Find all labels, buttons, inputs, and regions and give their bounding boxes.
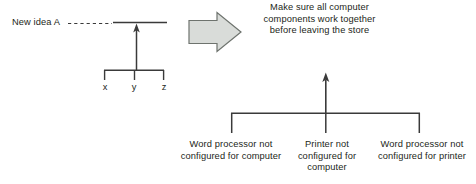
right-block-arrow-icon <box>189 13 241 52</box>
branch-label-z: z <box>155 82 173 94</box>
branch-label-y: y <box>125 82 143 94</box>
effect-statement-text: Make sure all computer components work t… <box>253 2 386 37</box>
cause-label-2: Printer not configured for computer <box>285 139 369 174</box>
branch-label-x: x <box>96 82 114 94</box>
diagram-canvas: New idea A Make sure all computer compon… <box>0 0 476 184</box>
new-idea-label: New idea A <box>12 17 60 29</box>
cause-label-1: Word processor not configured for comput… <box>179 139 283 162</box>
cause-label-3: Word processor not configured for printe… <box>370 139 474 162</box>
